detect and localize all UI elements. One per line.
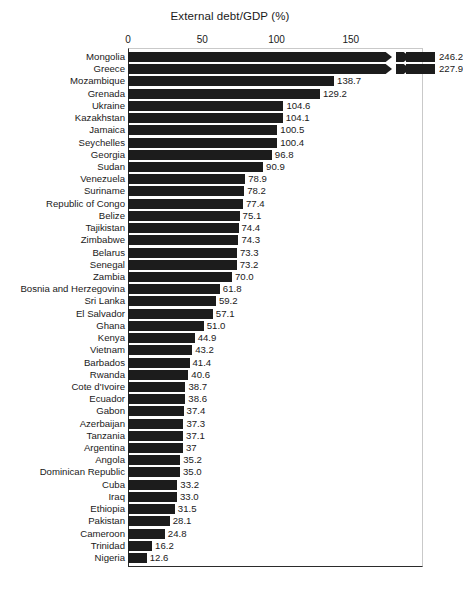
bar <box>128 455 180 465</box>
bar <box>128 162 263 172</box>
axis-break-zigzag-icon <box>378 64 406 74</box>
value-label: 100.4 <box>280 138 304 148</box>
bar-row: Venezuela78.9 <box>0 174 460 184</box>
bar <box>128 333 195 343</box>
category-label: Ecuador <box>89 394 125 404</box>
bar-row: Belarus73.3 <box>0 248 460 258</box>
bar <box>128 223 239 233</box>
bar-row: Bosnia and Herzegovina61.8 <box>0 284 460 294</box>
value-label: 37.4 <box>187 407 206 417</box>
category-label: El Salvador <box>76 309 125 319</box>
bar-row: Ecuador38.6 <box>0 394 460 404</box>
bar-row: Argentina37 <box>0 443 460 453</box>
value-label: 78.2 <box>247 187 266 197</box>
axis-break-zigzag-icon <box>378 52 406 62</box>
value-label: 227.9 <box>439 64 463 74</box>
bar <box>128 174 245 184</box>
bar <box>128 284 220 294</box>
bar-row: Mozambique138.7 <box>0 76 460 86</box>
bar <box>128 138 277 148</box>
category-label: Sudan <box>97 162 125 172</box>
value-label: 74.3 <box>241 236 260 246</box>
bar <box>128 113 283 123</box>
value-label: 61.8 <box>223 284 242 294</box>
bar <box>128 419 183 429</box>
category-label: Ethiopia <box>90 504 125 514</box>
category-label: Kenya <box>98 333 125 343</box>
bar-row: Greece227.9 <box>0 64 460 74</box>
category-label: Nigeria <box>95 553 125 563</box>
bar-row: Seychelles100.4 <box>0 138 460 148</box>
bar-row: El Salvador57.1 <box>0 309 460 319</box>
category-label: Angola <box>95 455 125 465</box>
bar <box>128 467 180 477</box>
bar-row: Senegal73.2 <box>0 260 460 270</box>
category-label: Dominican Republic <box>40 468 125 478</box>
bar-row: Sudan90.9 <box>0 162 460 172</box>
bar-row: Cote d'Ivoire38.7 <box>0 382 460 392</box>
bar <box>128 272 232 282</box>
bar <box>128 345 192 355</box>
bar <box>128 309 213 319</box>
value-label: 90.9 <box>266 162 285 172</box>
category-label: Zimbabwe <box>81 236 125 246</box>
value-label: 51.0 <box>207 321 226 331</box>
value-label: 44.9 <box>198 333 217 343</box>
bar <box>128 101 283 111</box>
bar <box>128 248 237 258</box>
category-label: Iraq <box>108 492 125 502</box>
value-label: 28.1 <box>173 517 192 527</box>
value-label: 74.4 <box>242 223 261 233</box>
bar-row: Pakistan28.1 <box>0 516 460 526</box>
value-label: 37 <box>186 443 197 453</box>
category-label: Barbados <box>84 358 125 368</box>
bar-row: Barbados41.4 <box>0 358 460 368</box>
bar <box>128 199 243 209</box>
bar-row: Kazakhstan104.1 <box>0 113 460 123</box>
category-label: Kazakhstan <box>75 113 125 123</box>
bar-row: Vietnam43.2 <box>0 345 460 355</box>
bar-broken <box>128 52 435 62</box>
value-label: 59.2 <box>219 297 238 307</box>
bar <box>128 186 244 196</box>
category-label: Greece <box>94 64 125 74</box>
category-label: Bosnia and Herzegovina <box>20 284 125 294</box>
bar-segment-left <box>128 52 378 62</box>
category-label: Mozambique <box>70 77 125 87</box>
bar <box>128 431 183 441</box>
value-label: 37.3 <box>186 419 205 429</box>
category-label: Suriname <box>84 187 125 197</box>
bar-row: Trinidad16.2 <box>0 541 460 551</box>
value-label: 57.1 <box>216 309 235 319</box>
value-label: 33.0 <box>180 492 199 502</box>
bar <box>128 370 188 380</box>
bar-row: Kenya44.9 <box>0 333 460 343</box>
category-label: Argentina <box>84 443 125 453</box>
bar <box>128 260 237 270</box>
category-label: Zambia <box>93 272 125 282</box>
value-label: 24.8 <box>168 529 187 539</box>
bar-row: Zimbabwe74.3 <box>0 235 460 245</box>
value-label: 138.7 <box>337 77 361 87</box>
category-label: Georgia <box>91 150 125 160</box>
bar-row: Ethiopia31.5 <box>0 504 460 514</box>
value-label: 35.0 <box>183 468 202 478</box>
bar-row: Sri Lanka59.2 <box>0 296 460 306</box>
bar <box>128 296 216 306</box>
bar-row: Cuba33.2 <box>0 480 460 490</box>
bar <box>128 394 185 404</box>
value-label: 12.6 <box>150 553 169 563</box>
bar-row: Cameroon24.8 <box>0 529 460 539</box>
category-label: Republic of Congo <box>46 199 125 209</box>
category-label: Tajikistan <box>86 223 125 233</box>
bar <box>128 406 184 416</box>
category-label: Tanzania <box>87 431 125 441</box>
bar <box>128 211 240 221</box>
bar-row: Rwanda40.6 <box>0 370 460 380</box>
bar-row: Nigeria12.6 <box>0 553 460 563</box>
bar-row: Grenada129.2 <box>0 89 460 99</box>
category-label: Cuba <box>102 480 125 490</box>
value-label: 37.1 <box>186 431 205 441</box>
value-label: 104.6 <box>286 101 310 111</box>
category-label: Mongolia <box>86 52 125 62</box>
